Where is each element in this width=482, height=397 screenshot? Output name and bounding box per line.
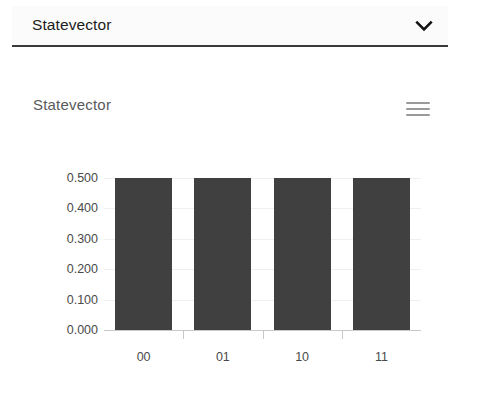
menu-line-2 [406,108,430,110]
menu-line-1 [406,102,430,104]
menu-line-3 [406,114,430,116]
visualization-select[interactable]: Statevector [12,6,448,47]
chart-title: Statevector [33,96,111,113]
chevron-down-icon[interactable] [414,17,434,35]
hamburger-menu-icon[interactable] [406,100,432,120]
visualization-select-value: Statevector [32,16,112,34]
statevector-panel: Statevector Statevector 0.0000.1000.2000… [0,0,482,397]
